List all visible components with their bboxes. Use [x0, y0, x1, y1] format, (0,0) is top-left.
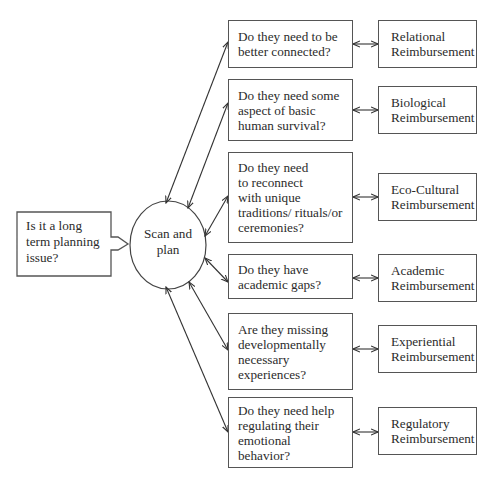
question-box-regulation: Do they need help regulating their emoti…: [228, 397, 353, 468]
question-label: Do they have academic gaps?: [238, 262, 321, 292]
question-box-connection: Do they need to be better connected?: [228, 20, 353, 68]
arrow-hub-q3: [205, 196, 228, 236]
outcome-box-relational: Relational Reimbursement: [378, 20, 477, 68]
question-label: Do they need some aspect of basic human …: [238, 88, 339, 133]
arrow-hub-q6: [166, 287, 228, 432]
outcome-box-experiential: Experiential Reimbursement: [378, 325, 477, 373]
outcome-box-academic: Academic Reimbursement: [378, 254, 477, 302]
outcome-box-regulatory: Regulatory Reimbursement: [378, 407, 477, 455]
outcome-label: Biological Reimbursement: [391, 95, 475, 125]
outcome-label: Eco-Cultural Reimbursement: [391, 182, 475, 212]
question-label: Do they need to be better connected?: [238, 29, 338, 59]
question-label: Do they need to reconnect with unique tr…: [238, 160, 342, 235]
question-box-academic: Do they have academic gaps?: [228, 254, 353, 299]
arrow-hub-q5: [189, 282, 228, 350]
outcome-label: Relational Reimbursement: [391, 29, 475, 59]
question-label: Do they need help regulating their emoti…: [238, 403, 343, 463]
outcome-label: Academic Reimbursement: [391, 263, 475, 293]
outcome-box-eco-cultural: Eco-Cultural Reimbursement: [378, 173, 477, 221]
question-box-traditions: Do they need to reconnect with unique tr…: [228, 152, 353, 243]
outcome-label: Regulatory Reimbursement: [391, 416, 475, 446]
arrow-hub-q1: [166, 42, 228, 203]
arrow-hub-q2: [188, 103, 228, 208]
hub-label: Scan and plan: [130, 226, 206, 258]
arrow-hub-q4: [205, 258, 228, 282]
start-question-label: Is it a long term planning issue?: [26, 218, 112, 266]
question-box-survival: Do they need some aspect of basic human …: [228, 79, 353, 141]
question-box-experiences: Are they missing developmentally necessa…: [228, 313, 353, 390]
outcome-box-biological: Biological Reimbursement: [378, 86, 477, 134]
question-label: Are they missing developmentally necessa…: [238, 322, 328, 382]
outcome-label: Experiential Reimbursement: [391, 334, 475, 364]
